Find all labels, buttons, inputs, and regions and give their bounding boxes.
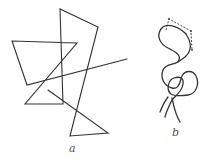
wavy-chain-tail-right	[172, 98, 180, 122]
dashed-segment-overlay	[166, 19, 192, 50]
joint-dot	[191, 49, 193, 51]
panel-b-joints	[168, 18, 193, 51]
panel-a-label: a	[69, 143, 76, 154]
panel-b-chain	[159, 25, 198, 122]
joint-dot	[190, 30, 192, 32]
figure: a b	[0, 0, 207, 159]
joint-dot	[168, 18, 170, 20]
panel-a-chain	[12, 9, 127, 136]
polyline-segments	[12, 9, 127, 136]
panel-b-label: b	[172, 127, 179, 138]
panel-b-dashed-segments	[166, 19, 192, 50]
